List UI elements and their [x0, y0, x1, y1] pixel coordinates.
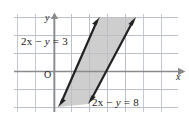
- equation-label-1: 2x − y = 3: [21, 35, 68, 47]
- y-axis-label: y: [45, 12, 49, 23]
- origin-label: O: [44, 69, 51, 80]
- equation-1-value: 3: [62, 35, 68, 47]
- equation-2-coefficient: 2x: [92, 96, 103, 108]
- graph-figure: 2x − y = 3 2x − y = 8 y x O: [0, 0, 189, 125]
- equation-2-value: 8: [133, 96, 139, 108]
- x-axis-label: x: [176, 71, 180, 82]
- y-axis: [51, 13, 58, 113]
- shaded-solution-region: [58, 17, 136, 107]
- equation-1-coefficient: 2x: [21, 35, 32, 47]
- equation-label-2: 2x − y = 8: [92, 96, 139, 108]
